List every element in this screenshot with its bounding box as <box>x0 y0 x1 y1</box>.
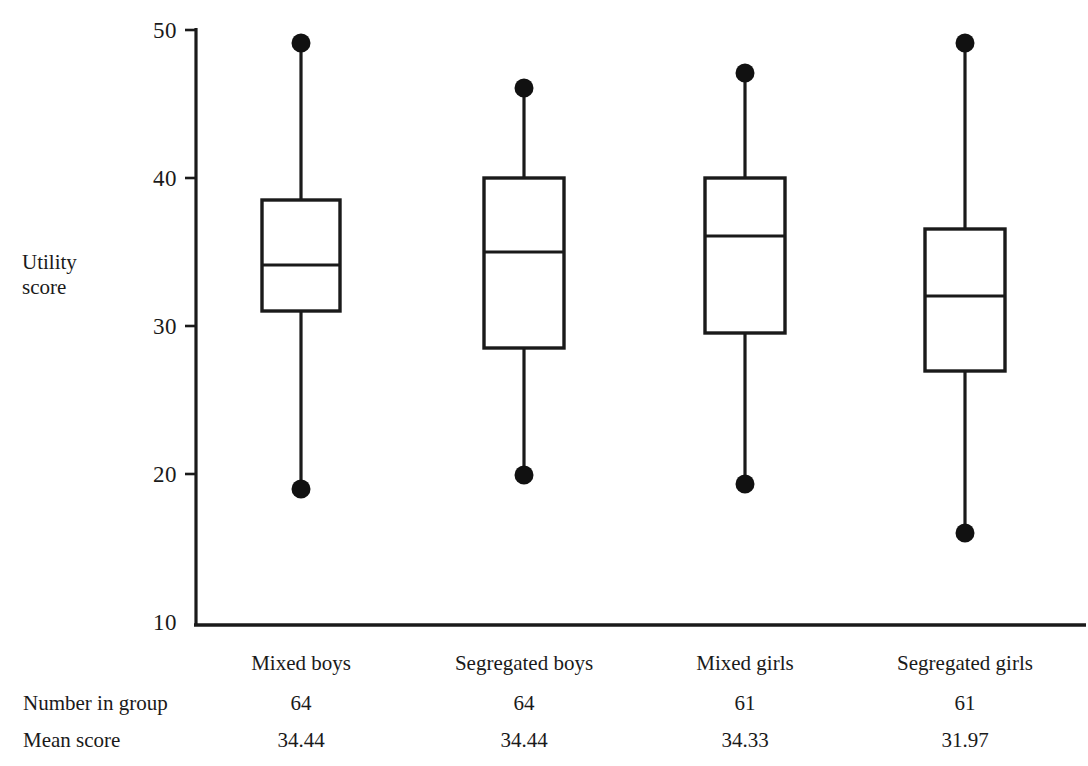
lower-extreme-marker <box>736 475 755 494</box>
quartile-box <box>484 178 564 348</box>
table-cell-mean-segregated-girls: 31.97 <box>941 729 988 751</box>
summary-table: Mixed boys Segregated boys Mixed girls S… <box>0 640 1088 766</box>
y-axis-title-line-1: Utility <box>22 250 152 275</box>
y-axis-title-line-2: score <box>22 275 152 300</box>
y-tick-label-10: 10 <box>133 611 177 634</box>
table-cell-number-mixed-girls: 61 <box>735 692 756 714</box>
category-label-segregated-girls: Segregated girls <box>897 652 1033 674</box>
box-plot-segregated-boys <box>484 79 564 485</box>
table-cell-number-mixed-boys: 64 <box>291 692 312 714</box>
category-label-mixed-girls: Mixed girls <box>696 652 793 674</box>
y-axis-title: Utility score <box>22 250 152 300</box>
table-cell-mean-segregated-boys: 34.44 <box>500 729 547 751</box>
upper-extreme-marker <box>956 34 975 53</box>
category-label-mixed-boys: Mixed boys <box>251 652 351 674</box>
table-cell-mean-mixed-girls: 34.33 <box>721 729 768 751</box>
boxplot-figure: 50 40 30 20 10 Utility score Mixed boys … <box>0 0 1088 766</box>
lower-extreme-marker <box>956 524 975 543</box>
table-cell-number-segregated-girls: 61 <box>955 692 976 714</box>
y-tick-label-20: 20 <box>133 463 177 486</box>
lower-extreme-marker <box>292 480 311 499</box>
upper-extreme-marker <box>292 34 311 53</box>
y-tick-label-40: 40 <box>133 167 177 190</box>
table-cell-number-segregated-boys: 64 <box>514 692 535 714</box>
lower-extreme-marker <box>515 466 534 485</box>
quartile-box <box>262 200 340 311</box>
y-tick-label-30: 30 <box>133 315 177 338</box>
quartile-box <box>925 229 1005 371</box>
box-plot-segregated-girls <box>925 34 1005 543</box>
table-cell-mean-mixed-boys: 34.44 <box>277 729 324 751</box>
upper-extreme-marker <box>736 64 755 83</box>
table-row-label-number-in-group: Number in group <box>23 692 168 714</box>
box-plot-mixed-boys <box>262 34 340 499</box>
upper-extreme-marker <box>515 79 534 98</box>
table-row-label-mean-score: Mean score <box>23 729 120 751</box>
quartile-box <box>705 178 785 333</box>
y-axis-ticks <box>185 30 196 474</box>
box-plot-mixed-girls <box>705 64 785 494</box>
y-tick-label-50: 50 <box>133 19 177 42</box>
category-label-segregated-boys: Segregated boys <box>455 652 593 674</box>
